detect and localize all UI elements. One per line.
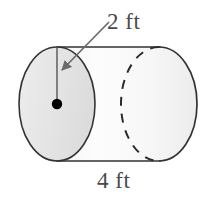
length-dimension-label: 4 ft bbox=[97, 169, 130, 192]
center-point bbox=[52, 99, 62, 109]
radius-dimension-label: 2 ft bbox=[107, 10, 140, 33]
cylinder-figure: 2 ft 4 ft bbox=[0, 0, 217, 199]
